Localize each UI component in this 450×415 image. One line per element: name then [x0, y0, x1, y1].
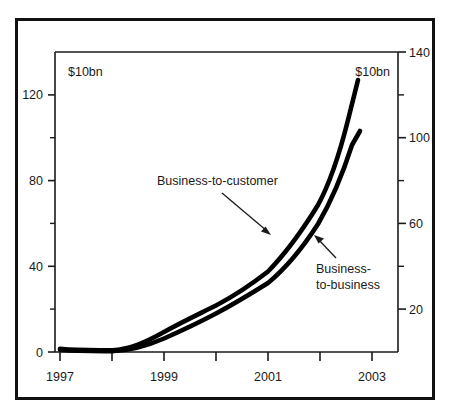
right-tick-label-20: 20: [409, 303, 423, 317]
annotation-business-to-customer: Business-to-customer: [157, 174, 278, 235]
annotation-b2b-label-line2: to-business: [316, 278, 380, 292]
series-business-to-business: [60, 131, 360, 351]
annotation-b2b-label-line1: Business-: [316, 262, 371, 276]
annotation-business-to-business: Business- to-business: [314, 235, 380, 292]
line-b2b: [60, 131, 360, 351]
annotation-b2b-arrowhead: [314, 235, 324, 244]
x-tick-label-2001: 2001: [254, 370, 282, 384]
annotation-b2c-label: Business-to-customer: [157, 174, 278, 188]
right-tick-label-60: 60: [409, 217, 423, 231]
left-tick-label-80: 80: [29, 174, 43, 188]
annotation-b2b-leader: [318, 239, 336, 258]
left-tick-label-40: 40: [29, 260, 43, 274]
left-tick-label-120: 120: [22, 88, 43, 102]
x-tick-label-1999: 1999: [150, 370, 178, 384]
left-axis-ticks: [48, 95, 55, 352]
right-tick-label-140: 140: [409, 46, 430, 60]
left-unit-label: $10bn: [68, 65, 103, 79]
right-axis-ticks: [398, 52, 406, 309]
left-tick-label-0: 0: [36, 346, 43, 360]
left-axis-tick-labels: 0 40 80 120: [22, 88, 43, 359]
right-unit-label: $10bn: [355, 65, 390, 79]
right-axis-tick-labels: 20 60 100 140: [409, 46, 430, 317]
chart-figure: 0 40 80 120 20 60 100 140: [0, 0, 450, 415]
x-tick-label-2003: 2003: [358, 370, 386, 384]
line-chart-plot: 0 40 80 120 20 60 100 140: [0, 0, 450, 415]
series-business-to-customer: [60, 80, 358, 350]
x-axis-tick-labels: 1997 1999 2001 2003: [46, 370, 386, 384]
line-b2c: [60, 80, 358, 350]
annotation-b2c-leader: [222, 193, 267, 231]
right-tick-label-100: 100: [409, 131, 430, 145]
x-tick-label-1997: 1997: [46, 370, 74, 384]
